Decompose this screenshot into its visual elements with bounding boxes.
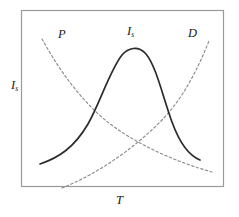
curve-label-intensity-sub: s [131,30,134,39]
curve-label-pressure-main: P [58,27,66,41]
y-axis-label-sub: s [15,84,18,93]
plot-canvas [0,0,239,217]
curve-label-intensity: Is [127,25,134,39]
curve-label-diffusion: D [188,27,197,41]
curve-label-diffusion-main: D [188,26,197,40]
x-axis-label-main: T [116,193,123,207]
curve-label-pressure: P [58,28,66,42]
figure-container: Is T P Is D [0,0,239,217]
y-axis-label: Is [11,79,18,93]
x-axis-label: T [116,194,123,208]
